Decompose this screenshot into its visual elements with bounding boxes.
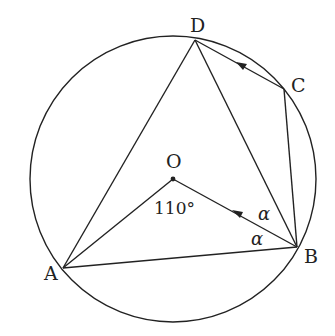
segment-OA bbox=[63, 179, 173, 268]
label-D: D bbox=[190, 14, 205, 36]
label-O: O bbox=[166, 150, 182, 172]
center-point-O bbox=[171, 177, 176, 182]
label-B: B bbox=[304, 245, 318, 267]
parallel-arrow-icon-CD bbox=[236, 62, 247, 70]
label-A: A bbox=[43, 262, 58, 284]
angle-label-ABO: α bbox=[251, 228, 263, 249]
label-C: C bbox=[291, 74, 306, 96]
angle-label-AOB: 110° bbox=[154, 198, 195, 218]
segment-DB bbox=[195, 40, 297, 247]
circle-geometry-diagram: D C O A B 110° α α bbox=[0, 0, 335, 336]
segment-AB bbox=[63, 247, 297, 268]
angle-label-OBD: α bbox=[258, 203, 270, 224]
